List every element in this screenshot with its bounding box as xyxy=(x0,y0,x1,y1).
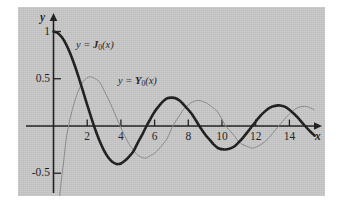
x-axis-label: x xyxy=(315,131,321,143)
y0-label: y = Y0(x) xyxy=(118,76,157,87)
figure-container: 246810121410.5-0.5 y x y = J0(x) y = Y0(… xyxy=(0,0,340,212)
x-tick-label: 12 xyxy=(242,131,270,143)
x-tick-label: 8 xyxy=(174,131,202,143)
y-tick-label: 0.5 xyxy=(18,73,50,85)
axes-group xyxy=(26,13,322,193)
bessel-plot-svg xyxy=(18,7,325,196)
x-tick-label: 14 xyxy=(275,131,303,143)
y-tick-marks xyxy=(54,32,62,174)
j0-label: y = J0(x) xyxy=(76,40,114,51)
j0-curve xyxy=(54,32,315,165)
y-axis-label: y xyxy=(40,12,45,24)
plot-plate: 246810121410.5-0.5 y x y = J0(x) y = Y0(… xyxy=(18,7,325,196)
x-axis-arrowhead xyxy=(314,122,322,130)
y-tick-label: -0.5 xyxy=(18,167,50,179)
y-tick-label: 1 xyxy=(18,26,50,38)
x-tick-label: 10 xyxy=(208,131,236,143)
x-tick-label: 6 xyxy=(141,131,169,143)
x-tick-label: 4 xyxy=(107,131,135,143)
y-axis-arrowhead xyxy=(50,13,58,21)
x-tick-label: 2 xyxy=(73,131,101,143)
